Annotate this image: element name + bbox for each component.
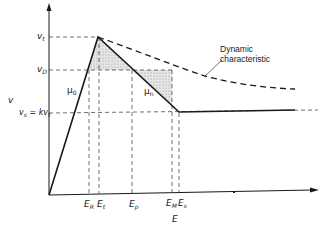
annotation-dynamic: Dynamic	[220, 44, 254, 54]
x-axis-label: E	[172, 214, 178, 224]
x-tick-Ep: Ep	[129, 199, 139, 211]
axis-dot-mark	[233, 191, 235, 193]
x-axis	[49, 190, 312, 195]
y-tick-vt: vt	[37, 31, 45, 42]
x-tick-Es: Es	[178, 198, 187, 209]
slope-label-mu0: μ0	[67, 85, 77, 96]
x-tick-EM: EM	[166, 198, 178, 209]
y-tick-vD: vD	[37, 64, 47, 75]
y-axis-label: v	[8, 95, 14, 105]
annotation-characteristic: characteristic	[220, 54, 271, 64]
y-axis-arrow-icon	[47, 3, 52, 11]
x-axis-arrow-icon	[310, 188, 319, 193]
x-tick-ER: ER	[84, 199, 94, 210]
x-tick-Et: Et	[97, 199, 106, 210]
y-tick-vs: vs = kvt	[19, 108, 51, 118]
stress-strain-diagram: vt vD vs = kvt v ER Et Ep EM Es E μ0 μn …	[0, 0, 328, 228]
